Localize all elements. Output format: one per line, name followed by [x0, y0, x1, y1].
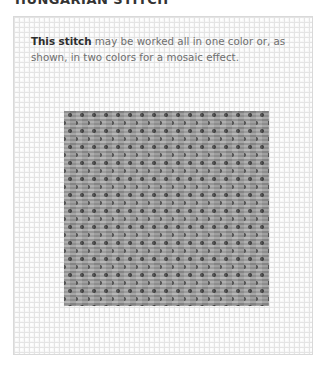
stitch-sample — [64, 111, 269, 306]
page-heading: HUNGARIAN STITCH — [15, 0, 169, 7]
figure-caption: This stitch may be worked all in one col… — [31, 33, 301, 65]
caption-lead: This stitch — [31, 35, 92, 47]
canvas-figure: This stitch may be worked all in one col… — [13, 16, 313, 355]
